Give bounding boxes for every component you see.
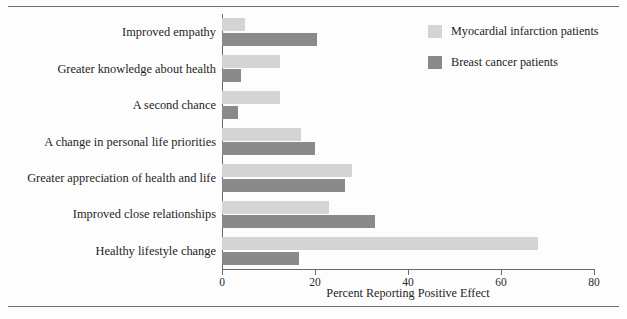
bar xyxy=(222,201,329,214)
bar xyxy=(222,55,280,68)
legend-item: Breast cancer patients xyxy=(428,55,599,70)
bar-group xyxy=(222,87,594,123)
bar xyxy=(222,69,241,82)
x-tick xyxy=(408,269,409,275)
x-tick xyxy=(594,269,595,275)
legend-swatch-icon xyxy=(428,56,442,69)
bar xyxy=(222,18,245,31)
category-label: Improved empathy xyxy=(122,25,216,40)
bar-group xyxy=(222,233,594,269)
category-label: Greater appreciation of health and life xyxy=(27,170,216,185)
category-label: A second chance xyxy=(133,98,216,113)
category-label: A change in personal life priorities xyxy=(44,134,216,149)
chart-figure: Improved empathyGreater knowledge about … xyxy=(0,0,627,319)
bar xyxy=(222,164,352,177)
category-label: Improved close relationships xyxy=(73,207,216,222)
bar xyxy=(222,237,538,250)
x-axis-title: Percent Reporting Positive Effect xyxy=(222,286,594,301)
top-divider-rule xyxy=(8,6,619,7)
category-label: Healthy lifestyle change xyxy=(96,243,216,258)
chart-legend: Myocardial infarction patientsBreast can… xyxy=(428,24,599,86)
bar xyxy=(222,33,317,46)
legend-swatch-icon xyxy=(428,25,442,38)
bar xyxy=(222,91,280,104)
bar-group xyxy=(222,123,594,159)
category-label: Greater knowledge about health xyxy=(57,61,216,76)
bar-group xyxy=(222,160,594,196)
bar xyxy=(222,128,301,141)
legend-label: Myocardial infarction patients xyxy=(451,24,599,39)
x-tick xyxy=(315,269,316,275)
x-tick xyxy=(501,269,502,275)
x-tick xyxy=(222,269,223,275)
bar xyxy=(222,142,315,155)
bar xyxy=(222,252,299,265)
bar xyxy=(222,106,238,119)
bar-group xyxy=(222,196,594,232)
legend-label: Breast cancer patients xyxy=(451,55,558,70)
legend-item: Myocardial infarction patients xyxy=(428,24,599,39)
bar xyxy=(222,215,375,228)
bar xyxy=(222,179,345,192)
bottom-divider-rule xyxy=(8,306,619,307)
